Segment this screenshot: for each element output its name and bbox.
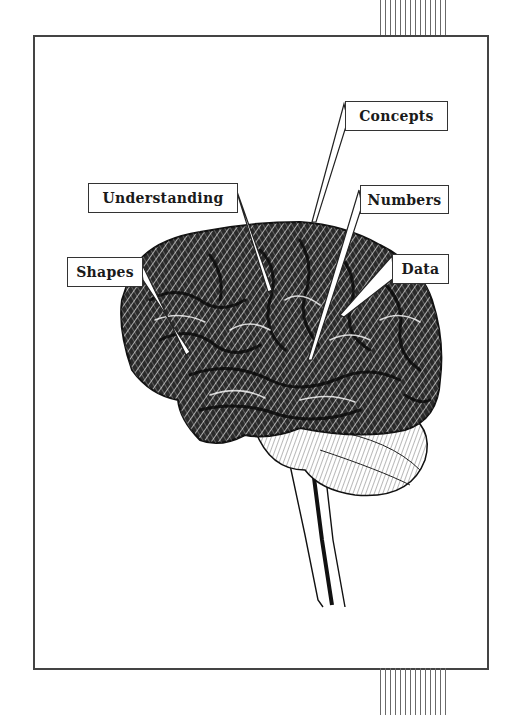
- label-data: Data: [392, 254, 449, 284]
- label-numbers: Numbers: [360, 185, 449, 214]
- leader-concepts: [312, 104, 348, 222]
- label-concepts: Concepts: [345, 101, 448, 131]
- label-shapes: Shapes: [67, 257, 143, 287]
- label-understanding: Understanding: [88, 183, 238, 213]
